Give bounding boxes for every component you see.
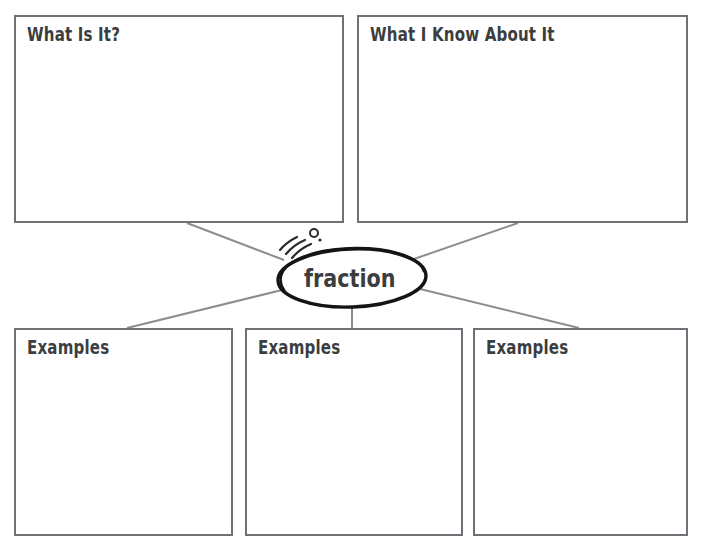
center-term-node[interactable]: fraction	[262, 228, 432, 310]
box-examples-3[interactable]: Examples	[473, 328, 688, 536]
sparkle-dot-icon	[318, 238, 321, 241]
box-what-is-it[interactable]: What Is It?	[14, 15, 344, 223]
box-examples-1-label: Examples	[27, 336, 109, 358]
box-what-i-know-about-it-label: What I Know About It	[370, 23, 555, 45]
box-what-is-it-label: What Is It?	[27, 23, 120, 45]
box-examples-1[interactable]: Examples	[14, 328, 233, 536]
box-examples-2-label: Examples	[258, 336, 340, 358]
sparkle-circle-icon	[310, 229, 318, 237]
box-examples-3-label: Examples	[486, 336, 568, 358]
box-examples-2[interactable]: Examples	[245, 328, 463, 536]
sparkle-mark-1	[280, 237, 297, 250]
connector-bottom-right	[416, 288, 579, 328]
box-what-i-know-about-it[interactable]: What I Know About It	[357, 15, 688, 223]
graphic-organizer: What Is It? What I Know About It Example…	[0, 0, 701, 552]
